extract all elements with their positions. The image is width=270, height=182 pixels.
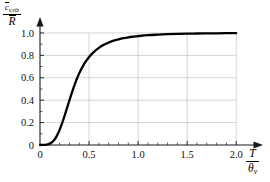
x-axis-title-denominator: θv	[246, 163, 259, 176]
x-tick-label: 1.0	[132, 149, 145, 160]
c-subscript: v,vib	[9, 7, 19, 13]
grid-lines	[40, 33, 236, 145]
x-tick-label: 0	[37, 149, 42, 160]
c-bar-symbol: c	[5, 3, 9, 12]
x-tick-label: 2.0	[230, 149, 243, 160]
y-tick-label: 0.2	[21, 117, 34, 128]
y-axis-title-numerator: cv,vib	[3, 3, 21, 13]
y-tick-label: 0.8	[21, 50, 34, 61]
x-tick-label: 1.5	[181, 149, 194, 160]
x-tick-label: 0.5	[82, 149, 95, 160]
y-axis-title-denominator: R	[3, 16, 21, 28]
x-axis-title-numerator: T	[246, 148, 259, 160]
theta-subscript: v	[254, 167, 257, 176]
y-axis-tick-labels: 00.20.40.60.81.0	[21, 28, 35, 151]
x-axis-tick-labels: 00.51.01.52.0	[37, 149, 242, 160]
y-axis-arrow-icon	[36, 17, 43, 27]
y-axis-title: cv,vib R	[3, 3, 21, 28]
y-tick-label: 0.6	[21, 72, 34, 83]
minor-tick-marks	[40, 44, 226, 145]
r-bar-symbol: R	[9, 16, 16, 28]
chart-plot-area: 00.51.01.52.0 00.20.40.60.81.0	[0, 0, 270, 182]
y-tick-label: 1.0	[21, 28, 34, 39]
chart-figure: 00.51.01.52.0 00.20.40.60.81.0 cv,vib R …	[0, 0, 270, 182]
x-axis-title: T θv	[246, 148, 259, 175]
y-tick-label: 0	[29, 140, 34, 151]
y-tick-label: 0.4	[21, 95, 35, 106]
